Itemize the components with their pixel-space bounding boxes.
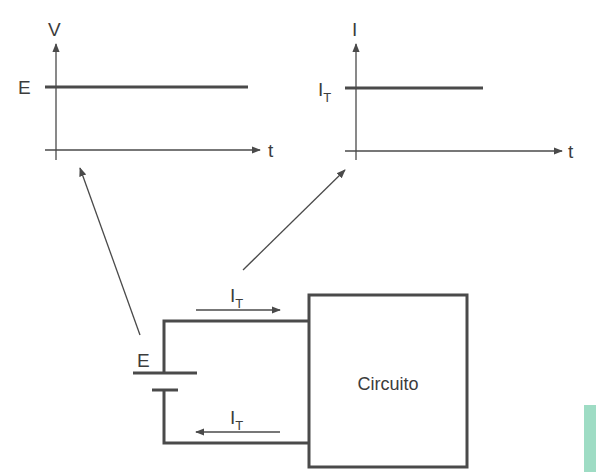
v-axis-label: V: [48, 19, 61, 40]
current-pointer-arrow: [243, 170, 345, 270]
current-graph: I IT t: [318, 19, 574, 162]
i-axis-label: I: [352, 19, 357, 40]
it-level-label: IT: [318, 79, 331, 105]
t-axis-label: t: [268, 140, 274, 161]
circuit-block-label: Circuito: [357, 374, 418, 394]
e-level-label: E: [18, 77, 31, 98]
top-wire: [164, 321, 309, 373]
voltage-graph: V E t: [18, 19, 274, 161]
t-axis-label: t: [568, 141, 574, 162]
battery-label: E: [137, 350, 150, 371]
bottom-wire: [164, 389, 309, 443]
page-edge-color-tab: [584, 405, 596, 472]
dc-circuit-diagram: V E t I IT t Circuito E IT IT: [0, 0, 596, 472]
current-bottom-label: IT: [230, 407, 243, 433]
circuit: Circuito E IT IT: [133, 285, 467, 467]
current-top-label: IT: [230, 285, 243, 311]
voltage-pointer-arrow: [80, 168, 140, 335]
